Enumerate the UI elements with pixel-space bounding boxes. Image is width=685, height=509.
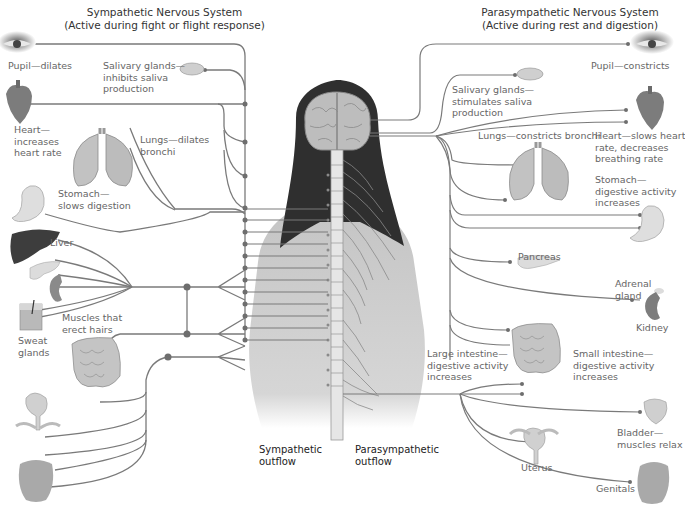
label-line: Salivary glands— bbox=[452, 84, 534, 96]
label-stomach-slows: Stomach— slows digestion bbox=[58, 188, 131, 211]
label-pancreas: Pancreas bbox=[518, 251, 561, 263]
label-kidney: Kidney bbox=[636, 322, 668, 334]
left-bladder-uterus-icon bbox=[16, 393, 60, 430]
label-line: Bladder— bbox=[617, 427, 683, 439]
label-adrenal-gland: Adrenal gland bbox=[615, 278, 651, 301]
label-salivary-sym: Salivary glands— inhibits saliva product… bbox=[103, 60, 185, 95]
label-line: outflow bbox=[355, 456, 439, 468]
parasympathetic-outflow-label: Parasympathetic outflow bbox=[355, 444, 439, 468]
label-stomach-increases: Stomach— digestive activity increases bbox=[595, 174, 676, 209]
label-line: Sympathetic bbox=[259, 444, 322, 456]
right-stomach-icon bbox=[630, 206, 664, 242]
right-salivary-gland-icon bbox=[517, 68, 543, 80]
label-line: Stomach— bbox=[595, 174, 676, 186]
label-line: stimulates saliva bbox=[452, 96, 534, 108]
label-line: digestive activity bbox=[595, 186, 676, 198]
label-line: Large intestine— bbox=[427, 348, 508, 360]
label-line: breathing rate bbox=[595, 153, 685, 165]
label-line: Lungs—dilates bbox=[140, 134, 209, 146]
label-line: slows digestion bbox=[58, 200, 131, 212]
label-line: outflow bbox=[259, 456, 322, 468]
label-heart-increases: Heart— increases heart rate bbox=[14, 124, 62, 159]
label-line: glands bbox=[18, 347, 50, 359]
label-line: production bbox=[452, 107, 534, 119]
label-genitals: Genitals bbox=[596, 483, 635, 495]
parasympathetic-subtitle-text: (Active during rest and digestion) bbox=[470, 19, 670, 32]
label-line: Heart—slows heart bbox=[595, 130, 685, 142]
label-uterus: Uterus bbox=[521, 462, 552, 474]
label-pupil-dilates: Pupil—dilates bbox=[8, 60, 72, 72]
parasympathetic-title: Parasympathetic Nervous System (Active d… bbox=[470, 6, 670, 32]
label-line: digestive activity bbox=[573, 360, 654, 372]
right-intestines-icon bbox=[512, 324, 560, 373]
label-line: production bbox=[103, 83, 185, 95]
label-line: Stomach— bbox=[58, 188, 131, 200]
label-line: increases bbox=[427, 371, 508, 383]
human-back-figure bbox=[249, 80, 425, 440]
sympathetic-subtitle-text: (Active during fight or flight response) bbox=[62, 19, 267, 32]
left-intestines-icon bbox=[72, 338, 120, 387]
label-salivary-para: Salivary glands— stimulates saliva produ… bbox=[452, 84, 534, 119]
label-line: Adrenal bbox=[615, 278, 651, 290]
right-eye-icon bbox=[630, 30, 674, 54]
label-line: erect hairs bbox=[62, 324, 122, 336]
left-genitals-icon bbox=[19, 460, 53, 502]
right-lungs-icon bbox=[510, 142, 569, 200]
label-line: bronchi bbox=[140, 146, 209, 158]
label-bladder: Bladder— muscles relax bbox=[617, 427, 683, 450]
left-stomach-icon bbox=[12, 186, 44, 222]
label-line: muscles relax bbox=[617, 439, 683, 451]
label-large-intestine: Large intestine— digestive activity incr… bbox=[427, 348, 508, 383]
label-line: rate, decreases bbox=[595, 142, 685, 154]
label-line: increases bbox=[573, 371, 654, 383]
left-kidney-icon bbox=[50, 274, 62, 302]
parasympathetic-title-text: Parasympathetic Nervous System bbox=[470, 6, 670, 19]
label-line: Sweat bbox=[18, 335, 50, 347]
label-line: increases bbox=[595, 197, 676, 209]
label-liver: Liver bbox=[50, 237, 73, 249]
label-line: Salivary glands— bbox=[103, 60, 185, 72]
skin-section-icon bbox=[20, 300, 42, 330]
label-line: heart rate bbox=[14, 147, 62, 159]
left-eye-icon bbox=[0, 31, 36, 53]
label-heart-slows: Heart—slows heart rate, decreases breath… bbox=[595, 130, 685, 165]
right-bladder-icon bbox=[644, 399, 667, 424]
label-pupil-constricts: Pupil—constricts bbox=[591, 60, 670, 72]
label-line: gland bbox=[615, 290, 651, 302]
left-heart-icon bbox=[6, 80, 32, 124]
sympathetic-title: Sympathetic Nervous System (Active durin… bbox=[62, 6, 267, 32]
label-line: Small intestine— bbox=[573, 348, 654, 360]
left-lungs-icon bbox=[74, 128, 133, 186]
label-line: Parasympathetic bbox=[355, 444, 439, 456]
label-muscles-erect-hairs: Muscles that erect hairs bbox=[62, 312, 122, 335]
sympathetic-outflow-label: Sympathetic outflow bbox=[259, 444, 322, 468]
label-lungs-dilates: Lungs—dilates bronchi bbox=[140, 134, 209, 157]
label-line: Muscles that bbox=[62, 312, 122, 324]
label-line: inhibits saliva bbox=[103, 72, 185, 84]
label-line: Heart— bbox=[14, 124, 62, 136]
label-small-intestine: Small intestine— digestive activity incr… bbox=[573, 348, 654, 383]
label-line: digestive activity bbox=[427, 360, 508, 372]
right-genitals-icon bbox=[637, 462, 669, 504]
right-heart-icon bbox=[636, 86, 664, 130]
label-sweat-glands: Sweat glands bbox=[18, 335, 50, 358]
label-line: increases bbox=[14, 136, 62, 148]
sympathetic-title-text: Sympathetic Nervous System bbox=[62, 6, 267, 19]
label-lungs-constricts: Lungs—constricts bronchi bbox=[478, 130, 600, 142]
